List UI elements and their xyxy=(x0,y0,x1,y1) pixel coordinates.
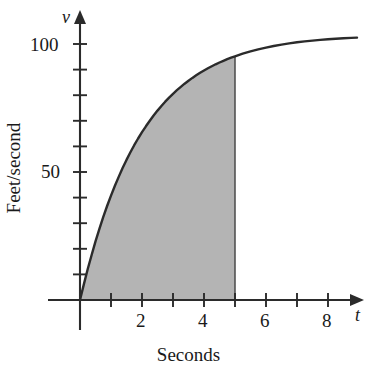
x-tick-label-8: 8 xyxy=(322,311,332,330)
y-axis-variable-symbol: v xyxy=(62,8,70,26)
x-tick-label-2: 2 xyxy=(136,311,146,330)
y-tick-label-50: 50 xyxy=(41,162,60,181)
velocity-time-chart: 100 50 2 4 6 8 v t Feet/second Seconds xyxy=(0,0,377,379)
y-tick-label-100: 100 xyxy=(30,35,59,54)
chart-plot-area xyxy=(0,0,377,379)
x-axis-title: Seconds xyxy=(0,345,377,364)
y-axis-arrow-icon xyxy=(74,10,86,24)
x-tick-label-6: 6 xyxy=(260,311,270,330)
x-tick-label-4: 4 xyxy=(198,311,208,330)
shaded-area-under-curve xyxy=(80,56,235,300)
y-axis-title: Feet/second xyxy=(4,98,23,238)
x-axis-variable-symbol: t xyxy=(355,306,360,324)
